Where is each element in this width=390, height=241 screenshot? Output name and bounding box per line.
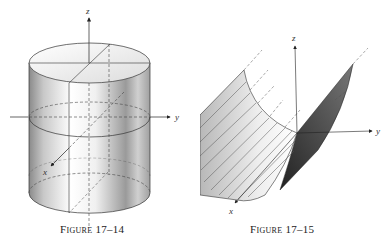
- y-axis-label: y: [375, 126, 380, 136]
- figure-17-14-cylinder: y z x: [0, 0, 200, 241]
- x-axis-label: x: [228, 206, 233, 216]
- figure-17-14-caption: Figure 17–14: [60, 223, 124, 235]
- z-axis-label: z: [85, 6, 90, 16]
- parabolic-right-wing: [280, 64, 353, 190]
- parabolic-left-sheet: [200, 70, 297, 201]
- z-axis-label: z: [291, 33, 296, 43]
- y-axis-label: y: [174, 112, 179, 122]
- figure-17-15-parabolic-cylinder: z y x: [200, 0, 390, 241]
- z-axis: [295, 46, 297, 133]
- x-axis-label: x: [42, 167, 47, 177]
- figure-17-15-caption: Figure 17–15: [250, 223, 314, 235]
- cylinder-body: [29, 63, 150, 213]
